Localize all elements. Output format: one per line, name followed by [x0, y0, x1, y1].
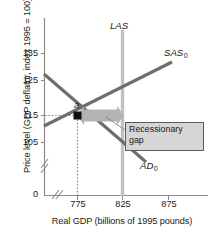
- y-axis-title: Price level (GDP deflator, index 1995 = …: [22, 13, 32, 173]
- x-tick-label-875: 875: [152, 199, 186, 209]
- x-axis-break-icon: [52, 190, 63, 199]
- y-tick-label-115: 115: [12, 110, 38, 120]
- x-tick-label-825: 825: [106, 199, 140, 209]
- recessionary-gap-line1: Recessionary: [129, 124, 200, 135]
- las-curve-label-text: LAS: [110, 20, 128, 31]
- equilibrium-point-label: a: [74, 99, 79, 110]
- recessionary-gap-annotation: Recessionary gap: [125, 122, 204, 151]
- ad-curve-label-subscript: 0: [154, 165, 158, 172]
- y-tick-label-105: 105: [12, 137, 38, 147]
- ad-curve-label-text: AD: [140, 160, 153, 171]
- sas-curve-label: SAS0: [164, 47, 187, 58]
- x-tick-label-775: 775: [61, 199, 95, 209]
- y-tick-label-125: 125: [12, 75, 38, 85]
- equilibrium-point-marker: [74, 112, 82, 120]
- sas-curve-label-subscript: 0: [184, 52, 188, 59]
- ad-curve-label: AD0: [140, 160, 157, 171]
- sas-curve-label-text: SAS: [164, 47, 183, 58]
- figure-macro-recessionary-gap: Price level (GDP deflator, index 1995 = …: [0, 0, 214, 235]
- y-tick-label-135: 135: [12, 48, 38, 58]
- las-curve-label: LAS: [110, 20, 128, 31]
- y-axis-origin-label: 0: [12, 189, 38, 199]
- x-axis-title: Real GDP (billions of 1995 pounds): [30, 216, 214, 226]
- recessionary-gap-line2: gap: [129, 135, 200, 146]
